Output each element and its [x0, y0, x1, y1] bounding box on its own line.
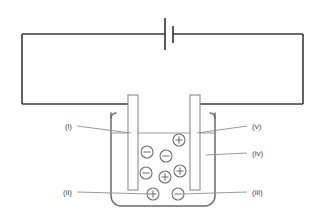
callout-v: (v) — [197, 122, 262, 133]
leader-line-i — [77, 126, 131, 133]
left-electrode — [128, 95, 138, 190]
ions-layer — [140, 134, 186, 200]
circuit-wiring — [22, 34, 303, 104]
right-electrode — [190, 95, 200, 190]
leader-line-iv — [206, 153, 247, 155]
electrolysis-diagram: (i)(ii)(iii)(iv)(v) — [0, 0, 322, 216]
negative-ion — [160, 150, 172, 162]
positive-ion — [159, 171, 171, 183]
positive-ion — [173, 134, 185, 146]
leader-line-ii — [77, 192, 150, 194]
positive-ion — [174, 165, 186, 177]
battery-symbol — [165, 18, 173, 50]
label-v: (v) — [252, 122, 262, 131]
callout-i: (i) — [65, 122, 131, 133]
label-iv: (iv) — [252, 149, 263, 158]
negative-ion — [141, 146, 153, 158]
label-ii: (ii) — [63, 188, 72, 197]
cell-diagram-canvas: (i)(ii)(iii)(iv)(v) — [0, 0, 322, 216]
label-iii: (iii) — [252, 188, 263, 197]
label-i: (i) — [65, 122, 72, 131]
negative-ion — [140, 167, 152, 179]
leader-line-v — [197, 126, 247, 133]
